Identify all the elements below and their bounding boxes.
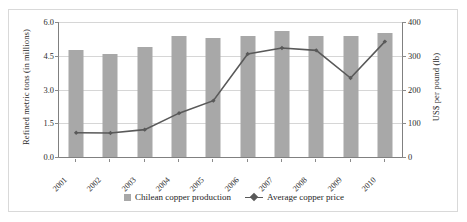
legend-label-price: Average copper price: [267, 192, 344, 202]
y-axis-right-tick-mark: [402, 22, 406, 23]
x-axis-tick-label: 2003: [120, 175, 138, 193]
y-axis-left-title: Refined metric tons (in millions): [21, 17, 31, 157]
x-axis-tick-mark: [315, 159, 316, 162]
x-axis-tick-mark: [144, 159, 145, 162]
x-axis-tick-mark: [384, 159, 385, 162]
y-axis-right-tick-mark: [402, 90, 406, 91]
y-axis-right-tick-label: 400: [408, 18, 421, 27]
price-marker: [74, 131, 78, 135]
y-axis-right-tick-label: 200: [408, 85, 421, 94]
y-axis-right-tick-mark: [402, 123, 406, 124]
chart-legend: Chilean copper production Average copper…: [9, 192, 459, 202]
x-axis-tick-label: 2010: [360, 175, 378, 193]
x-axis-tick-label: 2004: [154, 175, 172, 193]
x-axis-tick-label: 2007: [257, 175, 275, 193]
y-axis-right-title: US$ per pound (lb): [431, 17, 441, 157]
y-axis-right-tick-label: 0: [408, 153, 412, 162]
legend-item-average-copper-price: Average copper price: [245, 192, 344, 202]
x-axis-tick-label: 2008: [291, 175, 309, 193]
x-axis-tick-mark: [350, 159, 351, 162]
legend-item-chilean-copper-production: Chilean copper production: [124, 192, 231, 202]
x-axis-tick-label: 2002: [85, 175, 103, 193]
y-axis-right-tick-label: 300: [408, 51, 421, 60]
x-axis-tick-mark: [109, 159, 110, 162]
y-axis-left-tick-label: 0.0: [44, 153, 54, 162]
x-axis-tick-label: 2009: [326, 175, 344, 193]
y-axis-right-tick-label: 100: [408, 119, 421, 128]
x-axis-tick-label: 2005: [188, 175, 206, 193]
plot-area: 0.01.53.04.56.0 0100200300400: [58, 22, 403, 158]
y-axis-left-tick-mark: [55, 157, 59, 158]
y-axis-left-tick-label: 1.5: [44, 119, 54, 128]
legend-label-production: Chilean copper production: [135, 192, 231, 202]
square-swatch-icon: [124, 194, 131, 201]
price-marker: [108, 131, 112, 135]
x-axis-tick-mark: [212, 159, 213, 162]
price-polyline: [76, 42, 385, 133]
x-axis-tick-label: 2001: [51, 175, 69, 193]
y-axis-left-tick-label: 6.0: [44, 18, 54, 27]
y-axis-left-tick-label: 4.5: [44, 51, 54, 60]
chart-container: Refined metric tons (in millions) US$ pe…: [8, 9, 458, 212]
y-axis-right-tick-mark: [402, 157, 406, 158]
x-axis-tick-mark: [247, 159, 248, 162]
line-series-average-copper-price: [59, 22, 402, 157]
price-marker: [280, 46, 284, 50]
price-markers-group: [74, 39, 387, 135]
x-axis-tick-mark: [281, 159, 282, 162]
y-axis-right-tick-mark: [402, 56, 406, 57]
y-axis-left-tick-label: 3.0: [44, 85, 54, 94]
x-axis-tick-label: 2006: [223, 175, 241, 193]
x-axis-tick-mark: [178, 159, 179, 162]
line-diamond-marker-icon: [245, 193, 263, 201]
x-axis-tick-mark: [75, 159, 76, 162]
